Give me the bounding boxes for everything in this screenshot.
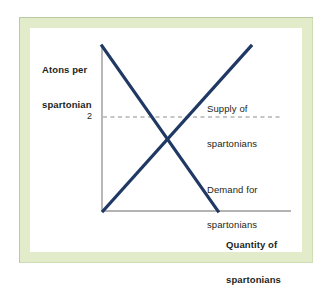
supply-curve-label: Supply of spartonians (207, 80, 257, 172)
supply-curve-label-line1: Supply of (207, 103, 257, 115)
demand-curve-label-line2: spartonians (207, 219, 258, 231)
supply-curve-label-line2: spartonians (207, 138, 257, 150)
y-axis-tick-label-2: 2 (87, 111, 92, 123)
y-axis-title-line1: Atons per (42, 64, 92, 76)
demand-curve-label: Demand for spartonians (207, 161, 258, 253)
demand-curve (102, 46, 218, 211)
x-axis-title-line2: spartonians (226, 274, 281, 286)
y-axis-title-line2: spartonian (42, 99, 92, 111)
y-axis-title: Atons per spartonian (42, 41, 92, 133)
demand-curve-label-line1: Demand for (207, 184, 258, 196)
